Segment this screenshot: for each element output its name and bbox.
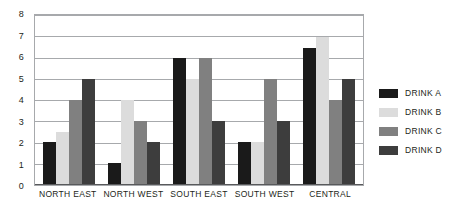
bar	[303, 48, 316, 185]
legend-item[interactable]: DRINK D	[379, 141, 463, 160]
bar-group	[166, 16, 231, 184]
legend-label: DRINK C	[405, 127, 442, 136]
bar	[329, 100, 342, 184]
bar	[238, 142, 251, 184]
y-axis-tick-label: 5	[19, 74, 24, 83]
x-axis-category-label: NORTH EAST	[35, 189, 101, 199]
y-axis-tick-label: 8	[19, 10, 24, 19]
legend-label: DRINK B	[405, 108, 442, 117]
legend-item[interactable]: DRINK A	[379, 84, 463, 103]
bar	[82, 79, 95, 184]
bar	[43, 142, 56, 184]
y-axis: 012345678	[0, 14, 30, 186]
bar	[316, 37, 329, 184]
legend-swatch-icon	[379, 89, 398, 98]
bar	[56, 132, 69, 185]
bar	[108, 163, 121, 184]
legend-swatch-icon	[379, 127, 398, 136]
bar	[199, 58, 212, 184]
bar	[147, 142, 160, 184]
bar	[264, 79, 277, 184]
y-axis-tick-label: 1	[19, 160, 24, 169]
x-axis-category-label: NORTH WEST	[101, 189, 167, 199]
y-axis-tick-label: 4	[19, 96, 24, 105]
chart-legend: DRINK ADRINK BDRINK CDRINK D	[379, 84, 463, 160]
bar-group	[101, 16, 166, 184]
y-axis-tick-label: 2	[19, 139, 24, 148]
bar	[121, 100, 134, 184]
x-axis-baseline	[35, 184, 363, 185]
bar	[212, 121, 225, 184]
y-axis-tick-label: 3	[19, 117, 24, 126]
legend-item[interactable]: DRINK B	[379, 103, 463, 122]
bar	[173, 58, 186, 184]
legend-item[interactable]: DRINK C	[379, 122, 463, 141]
bar	[134, 121, 147, 184]
bar	[251, 142, 264, 184]
x-axis-category-label: SOUTH WEST	[232, 189, 298, 199]
legend-label: DRINK A	[405, 89, 441, 98]
bar-group	[232, 16, 297, 184]
bars-layer	[36, 16, 362, 184]
y-axis-tick-label: 7	[19, 31, 24, 40]
bar-group	[297, 16, 362, 184]
bar	[277, 121, 290, 184]
plot-area-wrapper	[34, 14, 364, 186]
bar	[186, 79, 199, 184]
x-axis-category-label: CENTRAL	[297, 189, 363, 199]
bar	[69, 100, 82, 184]
y-axis-tick-label: 0	[19, 182, 24, 191]
y-axis-tick-label: 6	[19, 53, 24, 62]
plot-area	[34, 14, 364, 186]
legend-swatch-icon	[379, 108, 398, 117]
x-axis-category-label: SOUTH EAST	[166, 189, 232, 199]
bar-group	[36, 16, 101, 184]
x-axis: NORTH EASTNORTH WESTSOUTH EASTSOUTH WEST…	[35, 189, 363, 199]
legend-swatch-icon	[379, 146, 398, 155]
legend-label: DRINK D	[405, 146, 442, 155]
bar-chart: 012345678 NORTH EASTNORTH WESTSOUTH EAST…	[0, 0, 463, 222]
bar	[342, 79, 355, 184]
